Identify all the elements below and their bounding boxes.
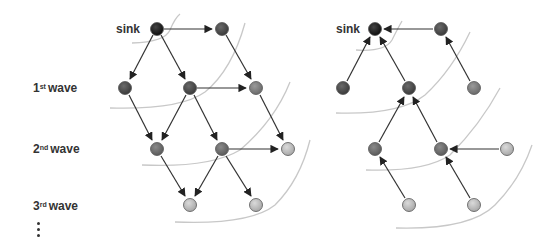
- node: [501, 143, 514, 156]
- sink-label-left: sink: [116, 22, 140, 36]
- sink-node: [151, 23, 164, 36]
- node: [216, 143, 229, 156]
- wave-word: wave: [48, 81, 77, 95]
- left-edges: [129, 29, 283, 196]
- node: [216, 23, 229, 36]
- right-wave-curves: [336, 21, 532, 228]
- wave-number: 1: [33, 81, 40, 95]
- node: [184, 82, 197, 95]
- node: [435, 23, 448, 36]
- wave-number: 2: [33, 142, 40, 156]
- wave-suffix: nd: [40, 144, 49, 151]
- wave-suffix: st: [40, 83, 46, 90]
- node: [403, 199, 416, 212]
- node: [435, 143, 448, 156]
- ellipsis-vertical-icon: [37, 222, 41, 240]
- node: [119, 82, 132, 95]
- wave-propagation-diagram: [0, 0, 553, 250]
- node: [468, 199, 481, 212]
- wave-curve-3: [142, 82, 290, 165]
- wave-word: wave: [49, 199, 78, 213]
- wave-word: wave: [50, 142, 79, 156]
- node: [468, 82, 481, 95]
- node: [250, 82, 263, 95]
- node: [403, 82, 416, 95]
- node: [337, 82, 350, 95]
- node: [369, 143, 382, 156]
- sink-node: [369, 23, 382, 36]
- sink-label-right: sink: [336, 22, 360, 36]
- node: [151, 143, 164, 156]
- wave-label-2: 2ndwave: [33, 142, 80, 156]
- left-wave-curves: [110, 14, 310, 222]
- node: [282, 143, 295, 156]
- wave-label-1: 1stwave: [33, 81, 77, 95]
- right-edges: [347, 29, 499, 198]
- node: [250, 199, 263, 212]
- wave-suffix: rd: [40, 201, 47, 208]
- wave-number: 3: [33, 199, 40, 213]
- node: [184, 199, 197, 212]
- wave-label-3: 3rdwave: [33, 199, 78, 213]
